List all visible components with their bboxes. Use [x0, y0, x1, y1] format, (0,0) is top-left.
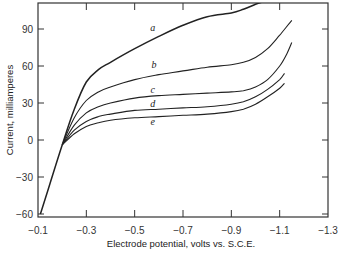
- x-axis-ticks: −0.1−0.3−0.5−0.7−0.9−1.1−1.3: [28, 3, 338, 236]
- x-tick-label: −0.9: [221, 225, 241, 236]
- x-tick-label: −0.1: [28, 225, 48, 236]
- y-tick-label: −30: [16, 172, 33, 183]
- x-axis-title: Electrode potential, volts vs. S.C.E.: [107, 238, 255, 249]
- y-axis-ticks: 9060300−30−60: [16, 24, 328, 220]
- y-tick-label: −60: [16, 209, 33, 220]
- curve-label-e: e: [151, 116, 156, 127]
- chart: −0.1−0.3−0.5−0.7−0.9−1.1−1.3 9060300−30−…: [0, 0, 339, 255]
- curve-c: [62, 43, 292, 145]
- plot-frame: [38, 3, 328, 217]
- y-tick-label: 60: [22, 61, 34, 72]
- y-tick-label: 90: [22, 24, 34, 35]
- curve-label-c: c: [151, 84, 156, 95]
- curve-e: [62, 83, 284, 145]
- curve-label-a: a: [150, 22, 155, 33]
- x-tick-label: −0.7: [173, 225, 193, 236]
- curve-label-d: d: [150, 98, 156, 109]
- curve-d: [62, 73, 284, 144]
- y-tick-label: 30: [22, 98, 34, 109]
- x-tick-label: −1.1: [270, 225, 290, 236]
- plot-curves: [40, 2, 291, 214]
- curve-label-b: b: [152, 59, 157, 70]
- x-tick-label: −0.5: [125, 225, 145, 236]
- curve-b: [62, 20, 292, 144]
- y-tick-label: 0: [27, 135, 33, 146]
- x-tick-label: −0.3: [76, 225, 96, 236]
- y-axis-title: Current, milliamperes: [4, 65, 15, 156]
- x-tick-label: −1.3: [318, 225, 338, 236]
